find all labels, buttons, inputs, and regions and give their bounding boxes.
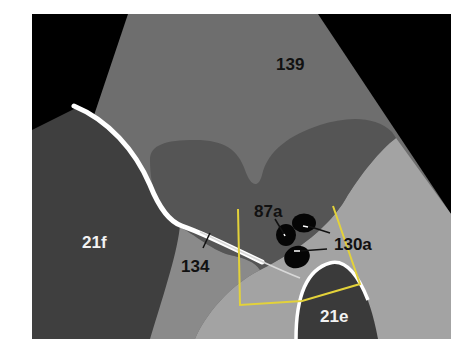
blob-87a <box>276 224 296 246</box>
blob-130a-upper <box>292 214 316 233</box>
ultrasound-figure <box>0 0 468 352</box>
label-21f: 21f <box>82 234 107 251</box>
label-21e: 21e <box>320 308 348 325</box>
diagram-stage: 139 21f 134 87a 130a 21e <box>0 0 468 352</box>
label-87a: 87a <box>254 203 282 220</box>
label-134: 134 <box>181 258 209 275</box>
label-130a: 130a <box>334 236 372 253</box>
label-139: 139 <box>276 56 304 73</box>
